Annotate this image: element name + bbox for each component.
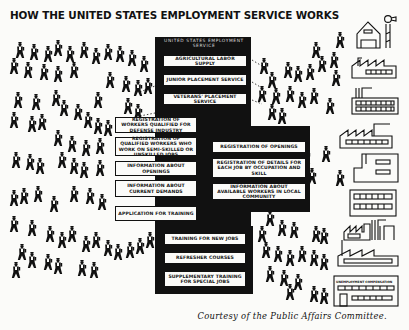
division-junior-placement: Junior Placement Service [163,74,247,86]
unemployment-sign: UNEMPLOYMENT COMPENSATION [336,280,393,284]
employer-buildings [334,16,398,306]
training-refresher-courses: Refresher courses [164,252,246,264]
worker-crowd-left [10,40,154,278]
factory-icon [344,220,394,240]
worker-application-training: Application for training [115,206,197,221]
barn-icon [357,16,396,48]
factory-icon [340,124,392,148]
worker-info-openings: Information about openings [115,161,197,176]
office-building-icon [350,190,396,216]
factory-icon [352,58,396,78]
office-building-icon [354,154,398,182]
division-veterans-placement: Veterans' Placement Service [163,93,247,105]
employer-info-available-workers: Information about available workers in l… [212,183,306,200]
caption: Courtesy of the Public Affairs Committee… [198,311,388,321]
factory-smokestacks-icon [352,88,398,114]
training-supplementary: Supplementary training for special jobs [164,271,246,287]
worker-registration-defense: Registration of workers qualified for de… [115,117,197,133]
employer-registration-openings: Registration of openings [212,141,306,153]
training-new-jobs: Training for new jobs [164,233,246,245]
employer-registration-details: Registration of details for each job by … [212,158,306,178]
worker-info-current-demands: Information about current demands [115,180,197,197]
factory-icon [338,240,398,266]
worker-registration-semiskilled: Registration of qualified workers who wo… [115,137,197,156]
agency-header: United States Employment Service [162,38,246,48]
division-agricultural-labor: Agricultural Labor Supply [163,55,247,67]
